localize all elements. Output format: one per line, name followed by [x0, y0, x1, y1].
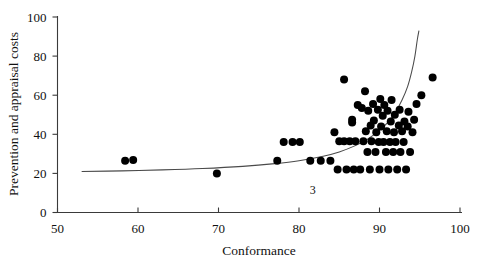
data-points-group	[121, 74, 437, 178]
x-tick-label: 100	[450, 221, 470, 236]
data-point	[409, 128, 417, 136]
data-point	[400, 138, 408, 146]
data-point	[213, 169, 221, 177]
data-point	[348, 116, 356, 124]
data-point	[366, 165, 374, 173]
data-point	[396, 106, 404, 114]
data-point	[273, 157, 281, 165]
data-point	[334, 165, 342, 173]
data-point	[376, 165, 384, 173]
data-point	[361, 87, 369, 95]
data-point	[384, 107, 392, 115]
data-point	[404, 108, 412, 116]
data-point	[417, 91, 425, 99]
y-tick-label: 20	[34, 166, 47, 181]
data-point	[340, 76, 348, 84]
x-tick-label: 90	[373, 221, 386, 236]
x-tick-label: 50	[51, 221, 64, 236]
y-tick-label: 40	[34, 127, 47, 142]
data-point	[370, 117, 378, 125]
axes-group	[57, 16, 462, 213]
x-tick-label: 60	[132, 221, 145, 236]
data-point	[402, 165, 410, 173]
x-tick-label: 80	[293, 221, 306, 236]
data-point	[364, 107, 372, 115]
data-point	[413, 100, 421, 108]
y-tick-label: 100	[27, 10, 47, 25]
data-point	[280, 138, 288, 146]
data-point	[392, 138, 400, 146]
data-point	[387, 118, 395, 126]
data-point	[389, 148, 397, 156]
data-point	[371, 148, 379, 156]
data-point	[367, 137, 375, 145]
data-point	[390, 128, 398, 136]
y-tick-label: 60	[34, 88, 47, 103]
data-point	[296, 138, 304, 146]
data-point	[410, 116, 418, 124]
data-point	[383, 127, 391, 135]
data-point	[393, 165, 401, 173]
data-point	[384, 165, 392, 173]
x-tick-label: 70	[212, 221, 225, 236]
x-axis-title: Conformance	[222, 243, 295, 258]
scatter-chart: 020406080100 5060708090100 3 Conformance…	[0, 0, 482, 268]
y-tick-label: 80	[34, 49, 47, 64]
data-point	[359, 137, 367, 145]
data-point	[330, 128, 338, 136]
y-axis-title: Prevention and appraisal costs	[6, 32, 21, 196]
data-point	[129, 156, 137, 164]
data-point	[429, 74, 437, 82]
data-point	[382, 148, 390, 156]
data-point	[317, 157, 325, 165]
curve-annotation-label: 3	[310, 183, 316, 197]
data-point	[406, 148, 414, 156]
data-point	[289, 138, 297, 146]
data-point	[351, 137, 359, 145]
y-tick-label: 0	[40, 205, 47, 220]
y-axis-ticks: 020406080100	[27, 10, 58, 221]
data-point	[306, 157, 314, 165]
plot-svg: 020406080100 5060708090100 3 Conformance…	[0, 0, 482, 268]
data-point	[356, 165, 364, 173]
data-point	[396, 148, 404, 156]
data-point	[343, 165, 351, 173]
data-point	[388, 96, 396, 104]
x-axis-ticks: 5060708090100	[51, 208, 470, 236]
data-point	[121, 157, 129, 165]
data-point	[326, 157, 334, 165]
data-point	[363, 148, 371, 156]
